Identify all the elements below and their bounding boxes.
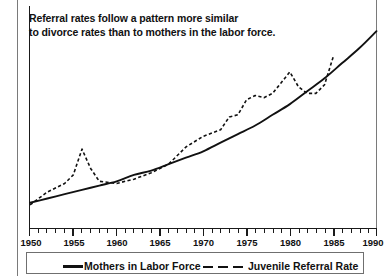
x-tick-label-1990: 1990: [362, 237, 383, 248]
x-tick-label-1955: 1955: [63, 237, 85, 248]
x-tick-label-1965: 1965: [149, 237, 171, 248]
x-tick-label-1980: 1980: [280, 237, 301, 248]
x-tick-label-1960: 1960: [106, 237, 127, 248]
x-tick-label-1985: 1985: [323, 237, 345, 248]
x-tick-label-1970: 1970: [193, 237, 214, 248]
chart-title-line-2: to divorce rates than to mothers in the …: [29, 26, 275, 38]
chart-background: [0, 0, 388, 276]
legend-label-juvenile: Juvenile Referral Rate: [248, 260, 358, 272]
x-axis-tick-labels: 1950 1955 1960 1965 1970 1975 1980 1985 …: [20, 237, 383, 248]
x-tick-label-1975: 1975: [236, 237, 258, 248]
chart-title-line-1: Referral rates follow a pattern more sim…: [29, 12, 238, 24]
legend-label-mothers: Mothers in Labor Force: [84, 260, 201, 272]
chart-legend: Mothers in Labor Force Juvenile Referral…: [27, 253, 364, 274]
juvenile-referral-chart: Referral rates follow a pattern more sim…: [0, 0, 388, 276]
x-tick-label-1950: 1950: [20, 237, 41, 248]
